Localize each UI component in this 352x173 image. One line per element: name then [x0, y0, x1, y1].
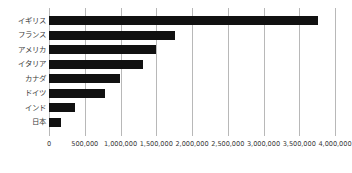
- bar: [49, 118, 61, 127]
- bar-row: [49, 115, 335, 130]
- category-label: ドイツ: [25, 86, 46, 101]
- bar: [49, 89, 105, 98]
- x-tick-label: 500,000: [71, 139, 98, 149]
- category-label: イタリア: [18, 57, 46, 72]
- bar-row: [49, 28, 335, 43]
- bar-row: [49, 86, 335, 101]
- x-tick-label: 3,500,000: [283, 139, 316, 149]
- gridline: [335, 8, 336, 136]
- bar-row: [49, 101, 335, 116]
- bar-row: [49, 43, 335, 58]
- bar-series: [49, 8, 335, 136]
- bar-chart: イギリスフランスアメリカイタリアカナダドイツインド日本 0500,0001,00…: [0, 0, 352, 173]
- category-label: アメリカ: [18, 43, 46, 58]
- bar: [49, 74, 120, 83]
- bar-row: [49, 57, 335, 72]
- x-axis-tick-labels: 0500,0001,000,0001,500,0002,000,0002,500…: [0, 139, 352, 153]
- bar: [49, 45, 156, 54]
- category-label: イギリス: [18, 14, 46, 29]
- bar-row: [49, 72, 335, 87]
- bar: [49, 103, 75, 112]
- bar: [49, 16, 318, 25]
- x-tick-label: 2,000,000: [175, 139, 208, 149]
- category-label: カナダ: [25, 72, 46, 87]
- x-tick-label: 0: [47, 139, 51, 149]
- category-label: フランス: [18, 28, 46, 43]
- x-tick-label: 4,000,000: [318, 139, 351, 149]
- x-tick-label: 2,500,000: [211, 139, 244, 149]
- bar: [49, 60, 143, 69]
- x-tick-label: 3,000,000: [247, 139, 280, 149]
- x-tick-label: 1,000,000: [104, 139, 137, 149]
- y-axis-category-labels: イギリスフランスアメリカイタリアカナダドイツインド日本: [0, 8, 46, 136]
- plot-area: [49, 8, 335, 136]
- category-label: インド: [25, 101, 46, 116]
- x-tick-label: 1,500,000: [140, 139, 173, 149]
- category-label: 日本: [32, 115, 46, 130]
- bar: [49, 31, 175, 40]
- bar-row: [49, 14, 335, 29]
